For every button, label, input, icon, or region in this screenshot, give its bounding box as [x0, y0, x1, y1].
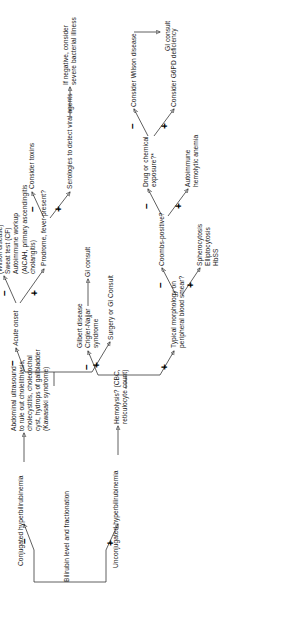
- node-coombs-positive: Coombs-positive?: [158, 188, 166, 266]
- node-gi-consult-wilson: GI consult: [164, 0, 172, 51]
- sign-minus-acute-onset: –: [0, 290, 10, 296]
- node-unconjugated-hyperbilirubinemia: Unconjugated hyperbilirubinemia: [112, 453, 120, 568]
- flowchart-page: Bilirubin level and fractionation Conjug…: [0, 0, 306, 636]
- node-surgery-or-gi-consult: Surgery or GI Consult: [107, 248, 115, 340]
- sign-plus-prodrome: +: [54, 206, 64, 212]
- sign-plus-coombs: +: [174, 203, 184, 209]
- node-consider-wilson-disease: Consider Wilson disease: [130, 7, 138, 107]
- sign-minus-drug-exposure: –: [128, 123, 138, 129]
- sign-minus-morphology: –: [156, 282, 166, 288]
- sign-minus-coombs: –: [142, 203, 152, 209]
- node-gilbert-crigler-najjar: Gilbert disease Crigler-Najjar syndrome: [76, 272, 100, 348]
- sign-plus-drug-exposure: +: [160, 123, 170, 129]
- node-conjugated-hyperbilirubinemia: Conjugated hyperbilirubinemia: [17, 461, 25, 566]
- sign-minus-hemolysis: –: [82, 364, 92, 370]
- sign-plus-ultrasound: +: [92, 362, 102, 368]
- node-autoimmune-hemolytic-anemia: Autoimmune hemolytic anemia: [184, 109, 200, 187]
- flowchart-canvas: Bilirubin level and fractionation Conjug…: [0, 0, 306, 636]
- node-typical-morphology: Typical morphology on peripheral blood s…: [170, 244, 186, 348]
- node-drug-chemical-exposure: Drug or chemical exposure?*: [142, 111, 158, 187]
- sign-minus-ultrasound: –: [8, 360, 18, 366]
- node-spherocytosis-group: Spherocytosis Elliptocytosis HbSS: [196, 194, 220, 266]
- sign-plus-morphology: +: [186, 282, 196, 288]
- sign-plus-bilirubin: +: [106, 540, 116, 546]
- node-hemolysis: Hemolysis? (CBC, reticulocyte count): [113, 334, 129, 424]
- node-if-negative-bacterial: If negative, consider severe bacterial i…: [62, 0, 78, 85]
- node-consider-toxins: Consider toxins: [28, 111, 36, 189]
- sign-plus-acute-onset: +: [30, 290, 40, 296]
- sign-minus-prodrome: –: [28, 206, 38, 212]
- sign-plus-hemolysis: +: [160, 364, 170, 370]
- node-prodrome-fever: Prodrome, fever present?: [40, 156, 48, 266]
- node-acute-onset: Acute onset: [12, 290, 20, 346]
- node-bilirubin-level: Bilirubin level and fractionation: [63, 462, 71, 582]
- sign-minus-bilirubin: –: [20, 538, 30, 544]
- node-gi-consult-gilbert: GI consult: [84, 219, 92, 277]
